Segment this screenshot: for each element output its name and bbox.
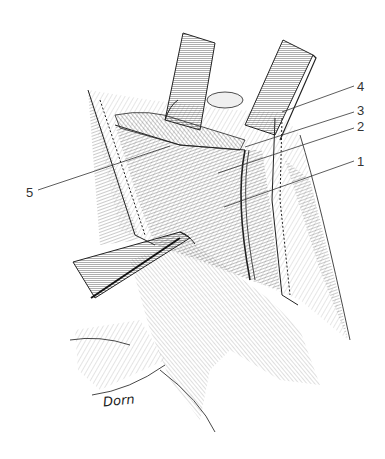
label-3: 3 [357, 104, 364, 117]
label-5: 5 [26, 186, 33, 199]
label-1: 1 [357, 155, 364, 168]
illustration-drawing [0, 0, 385, 459]
label-4: 4 [357, 80, 364, 93]
label-2: 2 [357, 120, 364, 133]
surgical-illustration: 4 3 2 1 5 Dorn [0, 0, 385, 459]
